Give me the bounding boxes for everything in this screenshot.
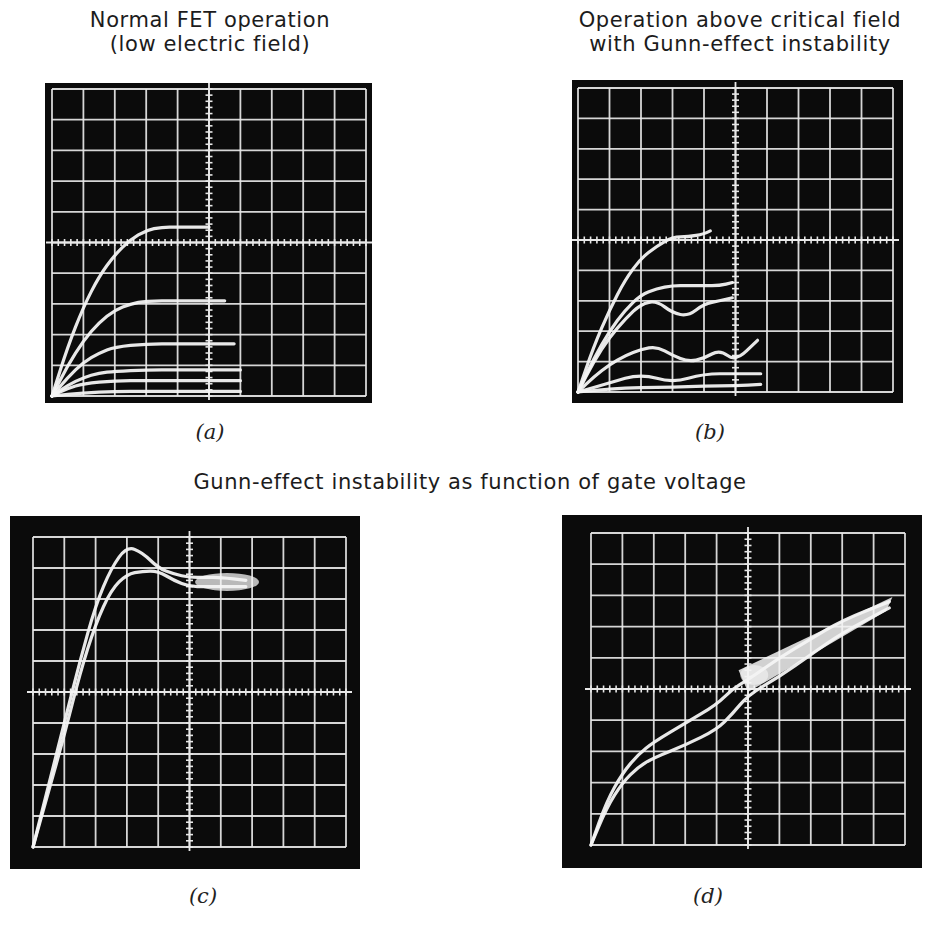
oscilloscope-panel-d xyxy=(562,515,922,868)
trace-trace-1 xyxy=(578,231,710,392)
oscillation-bloom xyxy=(195,573,259,591)
scope-screen-c xyxy=(10,516,360,869)
panel-label-d: (d) xyxy=(668,884,748,908)
scope-screen-b xyxy=(572,80,903,403)
oscilloscope-panel-c xyxy=(10,516,360,869)
traces xyxy=(33,549,259,847)
panel-label-c: (c) xyxy=(163,884,243,908)
oscillation-knot xyxy=(740,665,768,685)
center-axes xyxy=(46,83,372,400)
trace-trace-lower xyxy=(591,608,889,845)
scope-screen-a xyxy=(45,83,372,403)
title-panels-c-d: Gunn-effect instability as function of g… xyxy=(150,470,790,494)
title-panel-b: Operation above critical field with Gunn… xyxy=(550,8,930,56)
panel-label-b: (b) xyxy=(670,420,750,444)
oscilloscope-panel-a xyxy=(45,83,372,403)
center-axes xyxy=(572,82,899,396)
oscilloscope-panel-b xyxy=(572,80,903,403)
scope-screen-d xyxy=(562,515,922,868)
title-panel-a: Normal FET operation (low electric field… xyxy=(40,8,380,56)
trace-trace-upper xyxy=(591,602,889,845)
panel-label-a: (a) xyxy=(170,420,250,444)
